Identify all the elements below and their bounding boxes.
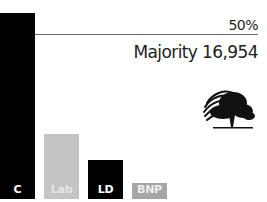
majority-label: Majority 16,954 bbox=[133, 42, 258, 62]
bar-label-ld: LD bbox=[98, 184, 114, 199]
bar-bnp: BNP bbox=[132, 183, 167, 199]
bar-label-c: C bbox=[14, 184, 22, 199]
bar-label-lab: Lab bbox=[51, 184, 72, 199]
vote-share-chart: 50% Majority 16,954 CLabLDBNP bbox=[0, 0, 267, 202]
conservative-tree-logo-icon bbox=[199, 85, 259, 133]
fifty-percent-line bbox=[34, 34, 258, 35]
bar-ld: LD bbox=[88, 160, 123, 199]
bar-c: C bbox=[0, 13, 35, 199]
bar-lab: Lab bbox=[44, 134, 79, 199]
bar-label-bnp: BNP bbox=[137, 184, 162, 199]
fifty-percent-label: 50% bbox=[228, 17, 258, 33]
